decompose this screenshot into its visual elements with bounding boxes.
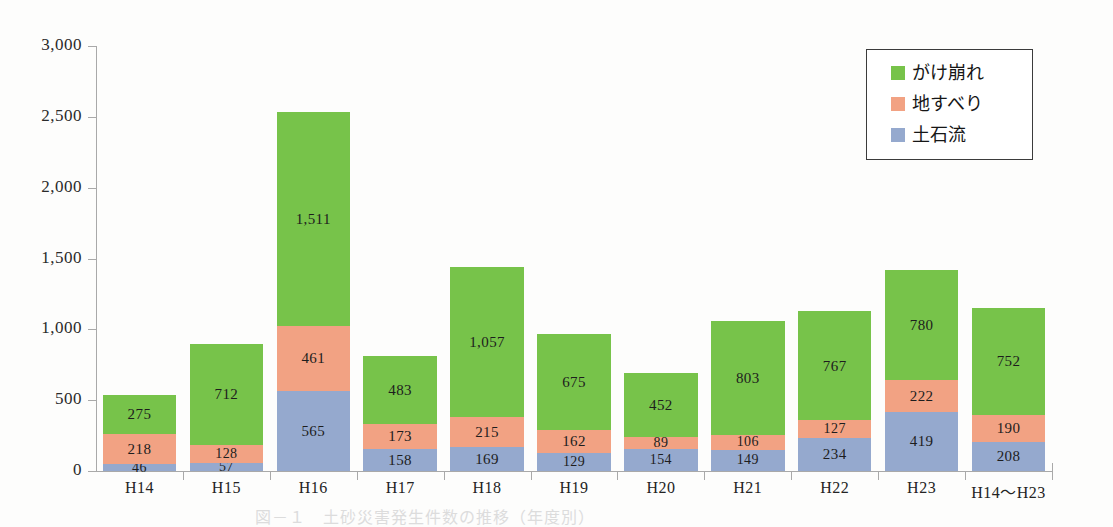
bar-segment[interactable]: 752 bbox=[972, 308, 1045, 415]
bar-segment[interactable]: 419 bbox=[885, 412, 958, 471]
bar-segment-value: 208 bbox=[972, 448, 1045, 465]
bar-segment-value: 127 bbox=[798, 421, 871, 437]
bar-segment-value: 169 bbox=[450, 451, 523, 468]
x-axis-tick-label: H16 bbox=[270, 479, 357, 497]
bar-H16[interactable]: 5654611,511 bbox=[277, 112, 350, 471]
bar-H17[interactable]: 158173483 bbox=[363, 356, 436, 471]
bar-H15[interactable]: 57128712 bbox=[190, 344, 263, 471]
x-axis-tick-label: H17 bbox=[357, 479, 444, 497]
bar-H18[interactable]: 1692151,057 bbox=[450, 267, 523, 471]
x-axis-tick-label: H22 bbox=[791, 479, 878, 497]
legend-item-label: 地すべり bbox=[912, 95, 983, 113]
bar-segment[interactable]: 149 bbox=[711, 450, 784, 471]
bar-segment-value: 190 bbox=[972, 420, 1045, 437]
bar-segment-value: 483 bbox=[363, 381, 436, 398]
x-axis-tick-label: H14 bbox=[96, 479, 183, 497]
bar-H21[interactable]: 149106803 bbox=[711, 321, 784, 471]
bar-segment[interactable]: 128 bbox=[190, 445, 263, 463]
y-axis-tick-label: 2,000 bbox=[0, 177, 82, 197]
bar-segment-value: 803 bbox=[711, 370, 784, 387]
x-axis-tick-label: H19 bbox=[531, 479, 618, 497]
bar-segment[interactable]: 1,057 bbox=[450, 267, 523, 417]
bar-segment[interactable]: 46 bbox=[103, 464, 176, 471]
legend-item[interactable]: 土石流 bbox=[891, 122, 966, 148]
bar-segment[interactable]: 780 bbox=[885, 270, 958, 381]
bar-segment-value: 275 bbox=[103, 406, 176, 423]
bar-segment[interactable]: 173 bbox=[363, 424, 436, 449]
legend: がけ崩れ地すべり土石流 bbox=[866, 49, 1033, 160]
bar-segment-value: 1,511 bbox=[277, 210, 350, 227]
bar-segment[interactable]: 158 bbox=[363, 449, 436, 471]
bar-H22[interactable]: 234127767 bbox=[798, 311, 871, 471]
bar-segment[interactable]: 275 bbox=[103, 395, 176, 434]
bar-segment[interactable]: 803 bbox=[711, 321, 784, 435]
bar-segment-value: 565 bbox=[277, 422, 350, 439]
legend-item-label: 土石流 bbox=[912, 126, 966, 144]
bar-segment-value: 752 bbox=[972, 353, 1045, 370]
bar-segment[interactable]: 106 bbox=[711, 435, 784, 450]
bar-segment[interactable]: 234 bbox=[798, 438, 871, 471]
chart-page: 05001,0001,5002,0002,5003,000 H14H15H16H… bbox=[0, 0, 1113, 527]
bar-segment[interactable]: 162 bbox=[537, 430, 610, 453]
y-axis-tick-label: 1,500 bbox=[0, 248, 82, 268]
figure-caption-text: 図－１ 土砂災害発生件数の推移（年度別） bbox=[255, 508, 595, 527]
bar-segment[interactable]: 89 bbox=[624, 437, 697, 450]
bar-segment[interactable]: 129 bbox=[537, 453, 610, 471]
bar-segment-value: 218 bbox=[103, 441, 176, 458]
bar-segment[interactable]: 767 bbox=[798, 311, 871, 420]
bar-segment-value: 767 bbox=[798, 357, 871, 374]
bar-H14～H23[interactable]: 208190752 bbox=[972, 308, 1045, 471]
y-axis-tick-label: 500 bbox=[0, 389, 82, 409]
x-axis-line bbox=[96, 471, 1053, 472]
bar-H23[interactable]: 419222780 bbox=[885, 270, 958, 471]
bar-segment-value: 222 bbox=[885, 387, 958, 404]
bar-segment[interactable]: 169 bbox=[450, 447, 523, 471]
bar-H19[interactable]: 129162675 bbox=[537, 334, 610, 471]
bar-segment-value: 128 bbox=[190, 446, 263, 462]
x-axis-tick-label: H18 bbox=[444, 479, 531, 497]
bar-segment-value: 419 bbox=[885, 433, 958, 450]
bar-segment-value: 675 bbox=[537, 373, 610, 390]
bar-segment[interactable]: 1,511 bbox=[277, 112, 350, 326]
x-axis-tick-label: H14～H23 bbox=[965, 479, 1052, 503]
legend-item-label: がけ崩れ bbox=[912, 64, 984, 82]
bar-segment-value: 461 bbox=[277, 350, 350, 367]
bar-segment-value: 89 bbox=[624, 435, 697, 451]
bar-segment-value: 215 bbox=[450, 423, 523, 440]
y-axis-tick-label: 3,000 bbox=[0, 35, 82, 55]
bar-segment-value: 1,057 bbox=[450, 333, 523, 350]
y-axis-tick bbox=[88, 471, 97, 472]
legend-swatch-icon bbox=[891, 97, 905, 111]
bar-segment[interactable]: 190 bbox=[972, 415, 1045, 442]
bar-H20[interactable]: 15489452 bbox=[624, 373, 697, 471]
bar-segment[interactable]: 57 bbox=[190, 463, 263, 471]
x-axis-tick-label: H15 bbox=[183, 479, 270, 497]
y-axis-tick-label: 1,000 bbox=[0, 318, 82, 338]
bar-segment[interactable]: 208 bbox=[972, 442, 1045, 471]
bar-segment[interactable]: 127 bbox=[798, 420, 871, 438]
bar-segment-value: 154 bbox=[624, 452, 697, 468]
bar-segment[interactable]: 452 bbox=[624, 373, 697, 437]
bar-segment[interactable]: 218 bbox=[103, 434, 176, 465]
legend-item[interactable]: がけ崩れ bbox=[891, 60, 984, 86]
x-axis-tick-label: H20 bbox=[617, 479, 704, 497]
legend-swatch-icon bbox=[891, 128, 905, 142]
bar-segment-value: 106 bbox=[711, 434, 784, 450]
bar-segment-value: 149 bbox=[711, 452, 784, 468]
bar-segment[interactable]: 675 bbox=[537, 334, 610, 430]
bar-segment[interactable]: 222 bbox=[885, 380, 958, 411]
bar-segment[interactable]: 483 bbox=[363, 356, 436, 424]
bar-segment-value: 452 bbox=[624, 396, 697, 413]
legend-item[interactable]: 地すべり bbox=[891, 91, 983, 117]
bar-segment[interactable]: 154 bbox=[624, 449, 697, 471]
bar-segment[interactable]: 215 bbox=[450, 417, 523, 447]
bar-segment-value: 158 bbox=[363, 451, 436, 468]
bar-segment[interactable]: 712 bbox=[190, 344, 263, 445]
bar-segment[interactable]: 565 bbox=[277, 391, 350, 471]
bar-H14[interactable]: 46218275 bbox=[103, 395, 176, 471]
bar-segment-value: 780 bbox=[885, 316, 958, 333]
x-axis-tick-label: H21 bbox=[704, 479, 791, 497]
bar-segment[interactable]: 461 bbox=[277, 326, 350, 391]
bar-segment-value: 173 bbox=[363, 428, 436, 445]
bar-segment-value: 129 bbox=[537, 454, 610, 470]
